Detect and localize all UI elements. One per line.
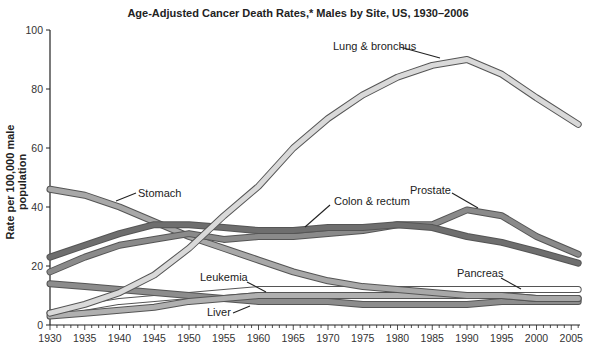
y-tick-label: 40 — [31, 201, 43, 213]
y-tick-label: 0 — [37, 319, 43, 331]
annotation-label-lung-bronchus: Lung & bronchus — [333, 40, 417, 52]
x-tick-label: 1950 — [177, 332, 201, 344]
annotation-label-leukemia: Leukemia — [200, 271, 249, 283]
x-tick-label: 1970 — [316, 332, 340, 344]
x-tick-label: 1940 — [108, 332, 132, 344]
x-tick-label: 2000 — [525, 332, 549, 344]
y-tick-label: 80 — [31, 83, 43, 95]
x-tick-label: 1955 — [212, 332, 236, 344]
x-tick-label: 1995 — [490, 332, 514, 344]
annotation-label-pancreas: Pancreas — [457, 267, 504, 279]
x-tick-label: 1965 — [282, 332, 306, 344]
x-tick-label: 2005 — [560, 332, 584, 344]
x-tick-label: 1960 — [247, 332, 271, 344]
y-tick-label: 20 — [31, 260, 43, 272]
x-tick-label: 1935 — [73, 332, 97, 344]
annotation-label-prostate: Prostate — [410, 184, 451, 196]
annotation-label-liver: Liver — [207, 306, 231, 318]
x-tick-label: 1975 — [351, 332, 375, 344]
annotation-leader-liver — [233, 306, 250, 313]
x-tick-label: 1985 — [421, 332, 445, 344]
annotation-leader-stomach — [116, 193, 136, 201]
chart: Age-Adjusted Cancer Death Rates,* Males … — [0, 0, 596, 361]
y-tick-label: 100 — [25, 24, 43, 36]
annotation-leader-prostate — [452, 193, 478, 208]
x-tick-label: 1980 — [386, 332, 410, 344]
annotation-label-stomach: Stomach — [138, 187, 181, 199]
x-tick-label: 1930 — [38, 332, 62, 344]
plot-area: 0204060801001930193519401945195019551960… — [0, 0, 596, 361]
annotation-leader-colon-rectum — [305, 205, 330, 227]
x-tick-label: 1990 — [455, 332, 479, 344]
annotation-label-colon-rectum: Colon & rectum — [334, 195, 410, 207]
x-tick-label: 1945 — [143, 332, 167, 344]
y-tick-label: 60 — [31, 142, 43, 154]
